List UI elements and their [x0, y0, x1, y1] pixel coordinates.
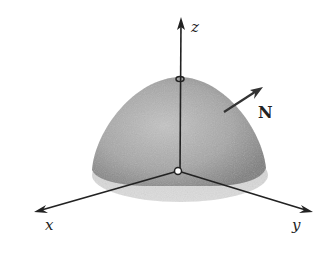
normal-vector-label: N [258, 103, 273, 122]
origin-marker [175, 168, 182, 175]
z-axis [180, 22, 181, 171]
z-axis-label: z [190, 18, 199, 36]
paraboloid-diagram: z x y N [0, 0, 331, 253]
y-axis-label: y [291, 216, 301, 234]
x-axis-label: x [45, 216, 54, 234]
